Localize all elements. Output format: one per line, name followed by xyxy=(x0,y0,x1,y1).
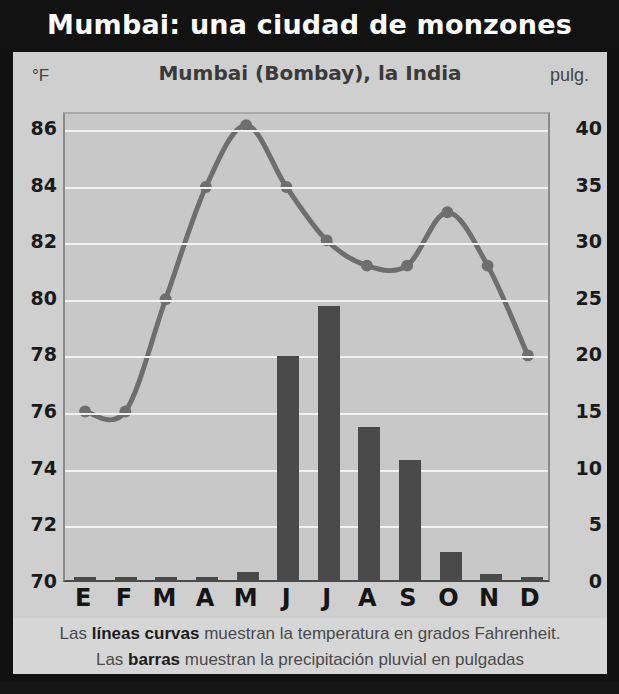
subtitle-row: °F Mumbai (Bombay), la India pulg. xyxy=(13,52,607,102)
month-label: A xyxy=(358,584,377,612)
right-tick-label: 35 xyxy=(558,176,602,195)
gridline xyxy=(65,526,548,528)
chart-caption: Las líneas curvas muestran la temperatur… xyxy=(13,618,607,674)
chart-panel: °F Mumbai (Bombay), la India pulg. 70727… xyxy=(13,52,607,674)
precipitation-bar xyxy=(155,577,177,580)
precipitation-bar xyxy=(480,574,502,580)
right-tick-label: 30 xyxy=(558,232,602,251)
left-tick-label: 80 xyxy=(21,289,57,308)
temperature-data-point xyxy=(401,260,413,272)
caption-1-bold: líneas curvas xyxy=(92,624,200,643)
right-axis-unit-label: pulg. xyxy=(550,65,589,86)
right-tick-label: 5 xyxy=(558,515,602,534)
precipitation-bar xyxy=(237,572,259,580)
climate-chart-figure: Mumbai: una ciudad de monzones °F Mumbai… xyxy=(0,0,619,694)
month-label: A xyxy=(196,584,215,612)
left-tick-label: 70 xyxy=(21,572,57,591)
precipitation-bar xyxy=(399,460,421,580)
temperature-data-point xyxy=(482,260,494,272)
left-axis-ticks: 707274767880828486 xyxy=(13,112,57,582)
temperature-data-point xyxy=(79,406,91,418)
month-label: D xyxy=(520,584,540,612)
precipitation-bar xyxy=(440,552,462,580)
left-tick-label: 82 xyxy=(21,232,57,251)
page-title: Mumbai: una ciudad de monzones xyxy=(47,9,572,40)
gridline xyxy=(65,300,548,302)
gridline xyxy=(65,187,548,189)
temperature-curve xyxy=(85,125,528,420)
caption-line-1: Las líneas curvas muestran la temperatur… xyxy=(13,621,607,647)
right-axis-ticks: 0510152025303540 xyxy=(558,112,606,582)
month-label: O xyxy=(438,584,458,612)
precipitation-bar xyxy=(74,577,96,580)
precipitation-bar xyxy=(115,577,137,580)
chart-subtitle: Mumbai (Bombay), la India xyxy=(13,61,607,85)
temperature-data-point xyxy=(522,349,534,361)
left-tick-label: 84 xyxy=(21,176,57,195)
gridline xyxy=(65,356,548,358)
gridline xyxy=(65,470,548,472)
precipitation-bar xyxy=(358,427,380,580)
month-label: S xyxy=(399,584,416,612)
gridline xyxy=(65,243,548,245)
precipitation-bar xyxy=(318,306,340,580)
gridline xyxy=(65,130,548,132)
left-tick-label: 72 xyxy=(21,515,57,534)
right-tick-label: 20 xyxy=(558,345,602,364)
caption-1-pre: Las xyxy=(60,624,92,643)
month-label: M xyxy=(153,584,177,612)
caption-2-bold: barras xyxy=(128,650,180,669)
left-tick-label: 76 xyxy=(21,402,57,421)
precipitation-bar xyxy=(196,577,218,580)
right-tick-label: 40 xyxy=(558,119,602,138)
month-label: N xyxy=(479,584,499,612)
bottom-strip xyxy=(0,682,619,694)
right-tick-label: 25 xyxy=(558,289,602,308)
x-axis-month-labels: EFMAMJJASOND xyxy=(63,584,550,618)
plot-area xyxy=(63,112,550,582)
month-label: M xyxy=(234,584,258,612)
month-label: J xyxy=(322,584,331,612)
month-label: F xyxy=(116,584,132,612)
title-banner: Mumbai: una ciudad de monzones xyxy=(0,0,619,48)
caption-2-pre: Las xyxy=(96,650,128,669)
right-tick-label: 15 xyxy=(558,402,602,421)
caption-2-post: muestran la precipitación pluvial en pul… xyxy=(180,650,524,669)
month-label: E xyxy=(75,584,91,612)
caption-1-post: muestran la temperatura en grados Fahren… xyxy=(199,624,560,643)
left-tick-label: 74 xyxy=(21,459,57,478)
temperature-data-point xyxy=(119,406,131,418)
left-tick-label: 86 xyxy=(21,119,57,138)
caption-line-2: Las barras muestran la precipitación plu… xyxy=(13,647,607,673)
left-tick-label: 78 xyxy=(21,345,57,364)
precipitation-bar xyxy=(277,356,299,580)
right-tick-label: 0 xyxy=(558,572,602,591)
temperature-data-point xyxy=(361,260,373,272)
precipitation-bar xyxy=(521,577,543,580)
gridline xyxy=(65,413,548,415)
temperature-data-point xyxy=(441,206,453,218)
month-label: J xyxy=(282,584,291,612)
temperature-line-series xyxy=(65,114,548,580)
right-tick-label: 10 xyxy=(558,459,602,478)
